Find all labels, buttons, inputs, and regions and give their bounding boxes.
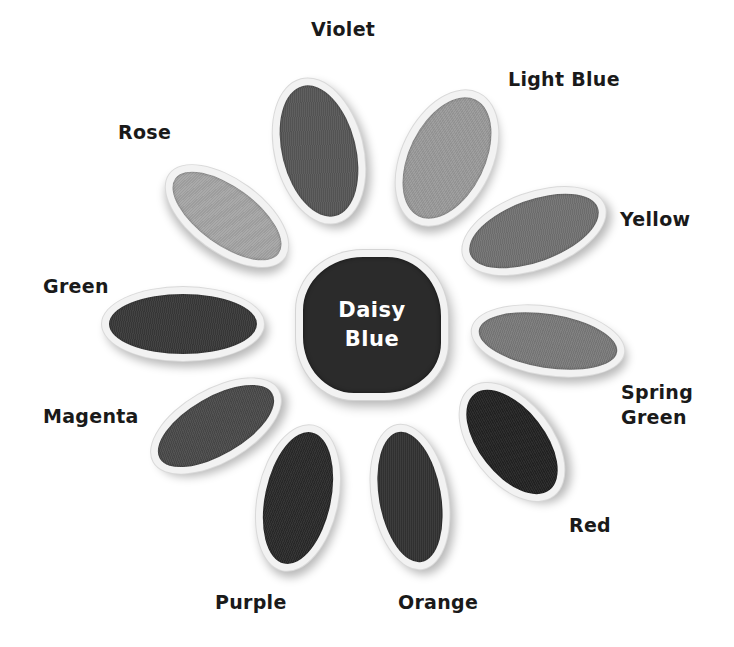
center-patch-daisy-blue: Daisy Blue — [296, 250, 448, 400]
petal-purple — [243, 417, 352, 578]
label-red: Red — [569, 513, 611, 537]
label-light-blue: Light Blue — [508, 67, 620, 91]
center-label-line2: Blue — [345, 325, 399, 354]
petal-violet — [258, 69, 379, 234]
label-yellow: Yellow — [620, 207, 690, 231]
color-daisy-diagram: Daisy Blue Violet Light Blue Yellow Spri… — [0, 0, 734, 647]
petal-red — [439, 364, 586, 520]
label-rose: Rose — [118, 120, 171, 144]
label-spring-green: Spring Green — [621, 380, 693, 430]
petal-green — [102, 287, 264, 361]
center-label-line1: Daisy — [338, 296, 406, 325]
label-green: Green — [43, 274, 109, 298]
label-orange: Orange — [398, 590, 478, 614]
petal-orange — [360, 419, 460, 576]
label-purple: Purple — [215, 590, 287, 614]
label-spring-green-line2: Green — [621, 405, 693, 430]
label-magenta: Magenta — [43, 404, 139, 428]
label-violet: Violet — [311, 17, 375, 41]
petal-spring-green — [467, 295, 630, 386]
label-spring-green-line1: Spring — [621, 380, 693, 405]
